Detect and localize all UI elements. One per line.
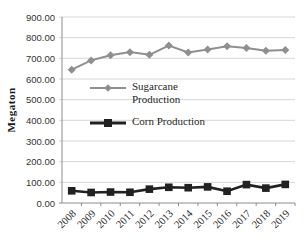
chart: 0.00100.00200.00300.00400.00500.00600.00… xyxy=(0,0,308,248)
series-line-corn xyxy=(72,184,286,192)
data-point-square xyxy=(126,188,134,196)
data-point-diamond xyxy=(204,45,212,53)
y-tick-label: 300.00 xyxy=(26,136,55,147)
data-point-square xyxy=(165,183,173,191)
data-point-square xyxy=(87,189,95,197)
sugarcane-line-marker-icon xyxy=(88,81,128,95)
data-point-diamond xyxy=(68,66,76,74)
data-point-diamond xyxy=(145,51,153,59)
data-point-diamond xyxy=(262,47,270,55)
x-tick-label: 2008 xyxy=(55,208,78,231)
y-tick-label: 500.00 xyxy=(26,94,55,105)
x-tick-label: 2016 xyxy=(211,208,234,231)
y-tick-label: 200.00 xyxy=(26,156,55,167)
data-point-square xyxy=(146,185,154,193)
data-point-diamond xyxy=(126,48,134,56)
data-point-square xyxy=(68,187,76,195)
data-point-square xyxy=(184,184,192,192)
x-tick-label: 2014 xyxy=(172,207,195,230)
legend-label-sugarcane: Sugarcane Production xyxy=(132,80,194,106)
data-point-square xyxy=(107,188,115,196)
legend-item-corn: Corn Production xyxy=(88,115,258,130)
data-point-square xyxy=(281,181,289,189)
legend-label-corn: Corn Production xyxy=(132,115,205,128)
data-point-square xyxy=(223,187,231,195)
legend: Sugarcane Production Corn Production xyxy=(88,80,258,130)
data-point-diamond xyxy=(87,56,95,64)
data-point-diamond xyxy=(165,42,173,50)
data-point-diamond xyxy=(281,46,289,54)
data-point-diamond xyxy=(184,49,192,57)
x-tick-label: 2018 xyxy=(250,208,273,231)
y-tick-label: 600.00 xyxy=(26,74,55,85)
y-tick-label: 800.00 xyxy=(26,32,55,43)
y-axis-title: Megaton xyxy=(5,40,19,180)
x-tick-label: 2012 xyxy=(133,208,156,231)
y-tick-label: 0.00 xyxy=(37,198,56,209)
x-tick-label: 2009 xyxy=(75,208,98,231)
x-tick-label: 2010 xyxy=(94,208,117,231)
y-tick-label: 400.00 xyxy=(26,115,55,126)
x-tick-label: 2011 xyxy=(114,208,136,230)
x-tick-label: 2015 xyxy=(191,208,214,231)
data-point-square xyxy=(204,183,212,191)
data-point-diamond xyxy=(223,42,231,50)
series-line-sugarcane xyxy=(72,46,286,70)
y-tick-label: 700.00 xyxy=(26,53,55,64)
y-tick-label: 100.00 xyxy=(26,177,55,188)
corn-line-marker-icon xyxy=(88,116,128,130)
data-point-square xyxy=(243,181,251,189)
legend-item-sugarcane: Sugarcane Production xyxy=(88,80,258,106)
data-point-diamond xyxy=(242,44,250,52)
data-point-square xyxy=(262,184,270,192)
y-tick-label: 900.00 xyxy=(26,12,55,23)
x-tick-label: 2017 xyxy=(230,208,253,231)
x-tick-label: 2013 xyxy=(153,208,176,231)
x-tick-label: 2019 xyxy=(269,208,292,231)
